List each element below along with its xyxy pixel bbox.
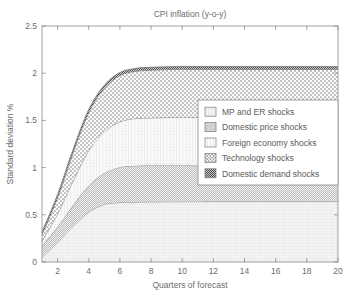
y-tick-label: 0 — [32, 257, 37, 267]
legend-label-3: Technology shocks — [222, 153, 294, 163]
chart-figure: 2468101214161820 00.511.522.5 CPI inflat… — [0, 0, 355, 297]
legend-label-1: Domestic price shocks — [222, 122, 307, 132]
legend-swatch-1 — [205, 123, 216, 132]
y-tick-label: 2 — [32, 68, 37, 78]
x-tick-label: 18 — [302, 266, 312, 276]
x-tick-label: 8 — [149, 266, 154, 276]
x-tick-label: 4 — [86, 266, 91, 276]
y-tick-label: 2.5 — [25, 21, 37, 31]
cpi-inflation-area-chart: 2468101214161820 00.511.522.5 CPI inflat… — [0, 0, 355, 297]
legend-label-2: Foreign economy shocks — [222, 138, 317, 148]
legend-label-0: MP and ER shocks — [222, 107, 294, 117]
legend-swatch-4 — [205, 169, 216, 178]
legend-swatch-0 — [205, 107, 216, 116]
x-tick-label: 2 — [55, 266, 60, 276]
legend-swatch-3 — [205, 153, 216, 162]
legend-swatch-2 — [205, 138, 216, 147]
x-tick-label: 14 — [240, 266, 250, 276]
x-axis-label: Quarters of forecast — [152, 280, 228, 290]
x-tick-label: 6 — [118, 266, 123, 276]
y-axis-label: Standard deviation % — [5, 103, 15, 184]
page-title: CPI inflation (y-o-y) — [154, 9, 227, 19]
x-tick-label: 10 — [177, 266, 187, 276]
x-tick-label: 20 — [333, 266, 343, 276]
y-tick-label: 1 — [32, 163, 37, 173]
y-tick-label: 1.5 — [25, 115, 37, 125]
chart-legend: MP and ER shocksDomestic price shocksFor… — [198, 100, 338, 185]
y-tick-label: 0.5 — [25, 210, 37, 220]
x-tick-label: 12 — [209, 266, 219, 276]
x-tick-label: 16 — [271, 266, 281, 276]
legend-label-4: Domestic demand shocks — [222, 169, 319, 179]
